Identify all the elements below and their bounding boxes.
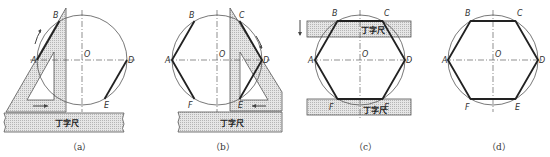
label-b: B (332, 9, 338, 18)
t-square-bottom (307, 99, 411, 115)
label-o: O (84, 50, 90, 59)
label-c: C (517, 9, 523, 18)
t-square-label: 丁字尺 (220, 118, 244, 128)
label-a: A (30, 56, 36, 65)
edge-de (105, 60, 128, 99)
t-square-top-label: 丁字尺 (361, 25, 385, 35)
panel-d: A B C O D E F （d） (441, 9, 545, 152)
label-b: B (53, 11, 59, 20)
panel-b: 丁字尺 A B C O D E F （b） (164, 8, 282, 152)
label-f: F (329, 103, 334, 112)
panel-a: 丁字尺 A B O D E （a） (4, 8, 136, 152)
panel-c: 丁字尺 丁字尺 A B C O D E F （c） (298, 9, 412, 152)
hexagon-construction-figure: 丁字尺 A B O D E （a） 丁字尺 (0, 0, 550, 157)
label-a: A (307, 56, 313, 65)
t-square-label: 丁字尺 (55, 118, 79, 128)
caption-b: （b） (211, 142, 235, 152)
label-b: B (189, 11, 195, 20)
label-d: D (406, 56, 412, 65)
caption-c: （c） (354, 142, 377, 152)
label-o: O (495, 50, 501, 59)
label-a: A (164, 56, 170, 65)
label-d: D (263, 56, 269, 65)
label-a: A (441, 56, 447, 65)
label-c: C (239, 11, 245, 20)
label-e: E (515, 103, 521, 112)
label-b: B (465, 9, 471, 18)
label-e: E (104, 101, 110, 110)
label-o: O (362, 50, 368, 59)
label-o: O (219, 50, 225, 59)
label-f: F (465, 103, 470, 112)
label-f: F (188, 101, 193, 110)
label-c: C (384, 9, 390, 18)
caption-a: （a） (68, 142, 91, 152)
arrow-head-icon (298, 32, 302, 36)
label-d: D (539, 56, 545, 65)
label-d: D (128, 56, 134, 65)
set-square (230, 8, 282, 111)
caption-d: （d） (487, 142, 511, 152)
